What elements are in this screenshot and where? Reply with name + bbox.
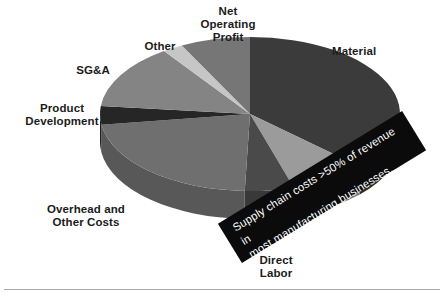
slice-label-overhead-and-other-costs: Overhead and Other Costs [30,203,142,229]
slice-label-material: Material [332,45,376,58]
slice-label-sga: SG&A [62,64,124,77]
footer-divider [4,289,440,290]
slice-label-product-development: Product Development [14,102,110,128]
slice-label-net-operating-profit: Net Operating Profit [183,5,273,44]
pie-chart-figure: Material Net Operating Profit Other SG&A… [0,0,444,300]
slice-label-other: Other [130,40,190,53]
